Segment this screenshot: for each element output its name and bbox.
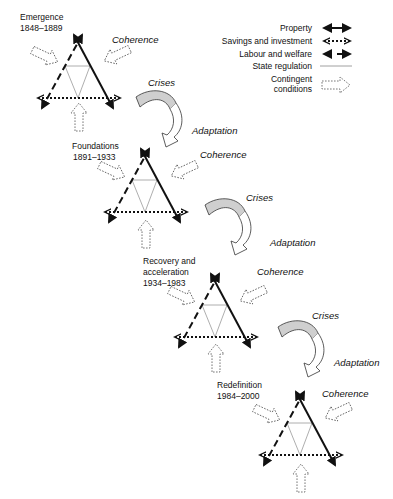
stage-foundations: Foundations 1891–1933 Coherence [72, 141, 246, 248]
stage-3-name-2: acceleration [143, 267, 189, 277]
contingent-arrow-icon [29, 43, 61, 69]
transition-2: Crises Adaptation [205, 192, 315, 255]
stage-3-triangle [175, 274, 257, 347]
contingent-arrow-icon [251, 401, 283, 427]
transition-3: Crises Adaptation [278, 310, 379, 377]
legend-savings-label: Savings and investment [222, 36, 313, 46]
contingent-arrow-icon [293, 464, 309, 492]
stage-3-coherence: Coherence [257, 266, 303, 277]
contingent-arrow-icon [237, 282, 269, 308]
adaptation-label: Adaptation [269, 237, 315, 248]
legend-property-label: Property [280, 23, 313, 33]
adaptation-label: Adaptation [191, 125, 237, 136]
stage-1-name: Emergence [20, 12, 64, 22]
legend-state-label: State regulation [252, 61, 312, 71]
stage-1-coherence: Coherence [112, 34, 158, 45]
stage-3-years: 1934–1983 [143, 278, 186, 288]
stage-emergence: Emergence 1848–1889 Coherence [20, 12, 158, 131]
legend-contingent-label-1: Contingent [271, 74, 313, 84]
stage-recovery: Recovery and acceleration 1934–1983 Cohe… [143, 256, 303, 372]
crises-label: Crises [246, 192, 273, 203]
stage-2-years: 1891–1933 [73, 152, 116, 162]
stage-4-triangle [260, 392, 342, 465]
contingent-arrow-icon [71, 103, 87, 131]
crises-label: Crises [312, 310, 339, 321]
legend: Property Savings and investment Labour a… [222, 23, 352, 94]
contingent-arrow-icon [208, 344, 224, 372]
legend-contingent-label-2: conditions [274, 84, 312, 94]
adaptation-label: Adaptation [333, 357, 379, 368]
stage-diagram: Property Savings and investment Labour a… [0, 0, 393, 499]
transition-1: Crises Adaptation [136, 77, 237, 147]
stage-1-triangle [38, 35, 120, 108]
stage-4-coherence: Coherence [322, 388, 368, 399]
stage-2-triangle [105, 149, 187, 222]
contingent-arrow-icon [322, 77, 350, 93]
stage-1-years: 1848–1889 [20, 23, 63, 33]
crises-adaptation-arrow-icon [205, 199, 251, 255]
stage-2-coherence: Coherence [200, 149, 246, 160]
stage-redefinition: Redefinition 1984–2000 Coherence [217, 380, 368, 492]
legend-labour-label: Labour and welfare [239, 49, 312, 59]
crises-adaptation-arrow-icon [136, 91, 182, 147]
crises-adaptation-arrow-icon [278, 321, 324, 377]
contingent-arrow-icon [168, 157, 200, 183]
stage-4-name: Redefinition [217, 380, 262, 390]
crises-label: Crises [148, 77, 175, 88]
contingent-arrow-icon [322, 399, 354, 425]
contingent-arrow-icon [101, 42, 133, 68]
stage-4-years: 1984–2000 [217, 391, 260, 401]
stage-2-name: Foundations [72, 141, 119, 151]
stage-3-name: Recovery and [143, 256, 196, 266]
contingent-arrow-icon [138, 220, 154, 248]
